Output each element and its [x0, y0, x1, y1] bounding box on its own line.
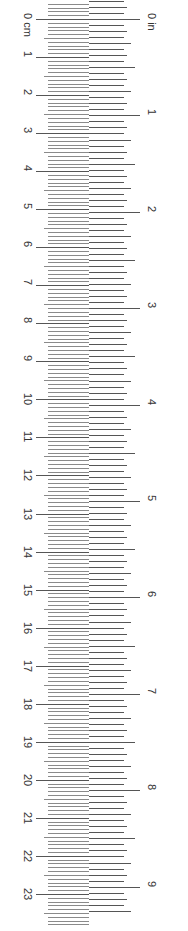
cm-label: 4 — [22, 165, 34, 171]
inch-tick — [89, 730, 127, 731]
cm-label: 6 — [22, 241, 34, 247]
mm-tick — [48, 681, 89, 682]
inch-tick — [89, 423, 124, 424]
cm-major-tick — [36, 361, 89, 362]
inch-tick — [89, 25, 124, 26]
inch-tick — [89, 393, 127, 394]
mm-tick — [48, 137, 89, 138]
mm-tick — [48, 765, 89, 766]
cm-half-tick — [44, 761, 89, 762]
inch-tick — [89, 67, 135, 68]
inch-tick — [89, 736, 124, 737]
mm-tick — [48, 708, 89, 709]
mm-tick — [48, 129, 89, 130]
inch-tick — [89, 844, 124, 845]
inch-tick — [89, 170, 124, 171]
mm-tick — [48, 529, 89, 530]
mm-tick — [48, 719, 89, 720]
inch-tick — [89, 863, 131, 864]
cm-major-tick — [36, 399, 89, 400]
inch-major-tick — [89, 790, 140, 791]
inch-tick — [89, 670, 131, 671]
inch-tick — [89, 760, 124, 761]
mm-tick — [48, 426, 89, 427]
inch-tick — [89, 869, 124, 870]
inch-tick — [89, 224, 127, 225]
mm-tick — [48, 259, 89, 260]
cm-major-tick — [36, 628, 89, 629]
mm-tick — [48, 122, 89, 123]
mm-tick — [48, 700, 89, 701]
mm-tick — [48, 841, 89, 842]
mm-tick — [48, 262, 89, 263]
mm-tick — [48, 635, 89, 636]
cm-label: 20 — [22, 774, 34, 786]
mm-tick — [48, 110, 89, 111]
mm-tick — [48, 498, 89, 499]
mm-tick — [48, 202, 89, 203]
mm-tick — [48, 46, 89, 47]
mm-tick — [48, 80, 89, 81]
inch-tick — [89, 417, 127, 418]
inch-tick — [89, 43, 131, 44]
inch-tick — [89, 754, 127, 755]
inch-tick — [89, 441, 127, 442]
cm-major-tick — [36, 742, 89, 743]
cm-major-tick — [36, 285, 89, 286]
mm-tick — [48, 483, 89, 484]
mm-tick — [48, 30, 89, 31]
inch-label: 8 — [146, 784, 158, 790]
inch-tick — [89, 543, 124, 544]
mm-tick — [48, 525, 89, 526]
cm-label: 15 — [22, 584, 34, 596]
cm-label: 1 — [22, 51, 34, 57]
inch-tick — [89, 176, 127, 177]
inch-tick — [89, 326, 124, 327]
inch-tick — [89, 164, 135, 165]
mm-tick — [48, 297, 89, 298]
inch-tick — [89, 218, 124, 219]
inch-tick — [89, 152, 127, 153]
mm-tick — [48, 27, 89, 28]
cm-major-tick — [36, 57, 89, 58]
inch-tick — [89, 121, 124, 122]
mm-tick — [48, 753, 89, 754]
inch-tick — [89, 622, 131, 623]
inch-tick — [89, 236, 131, 237]
mm-tick — [48, 358, 89, 359]
mm-tick — [48, 316, 89, 317]
mm-tick — [48, 605, 89, 606]
inch-label: 3 — [146, 302, 158, 308]
inch-tick — [89, 609, 127, 610]
mm-tick — [48, 689, 89, 690]
cm-major-tick — [36, 247, 89, 248]
mm-tick — [48, 768, 89, 769]
mm-tick — [48, 87, 89, 88]
mm-tick — [48, 407, 89, 408]
mm-tick — [48, 300, 89, 301]
inch-tick — [89, 483, 124, 484]
mm-tick — [48, 567, 89, 568]
inch-tick — [89, 374, 124, 375]
mm-tick — [48, 491, 89, 492]
cm-label: 19 — [22, 736, 34, 748]
inch-tick — [89, 573, 131, 574]
mm-tick — [48, 487, 89, 488]
inch-major-tick — [89, 501, 140, 502]
mm-tick — [48, 563, 89, 564]
inch-tick — [89, 314, 124, 315]
inch-tick — [89, 911, 131, 912]
inch-tick — [89, 615, 124, 616]
mm-tick — [48, 620, 89, 621]
cm-half-tick — [44, 76, 89, 77]
mm-tick — [48, 658, 89, 659]
mm-tick — [48, 175, 89, 176]
inch-tick — [89, 549, 135, 550]
inch-major-tick — [89, 887, 140, 888]
inch-tick — [89, 49, 124, 50]
inch-tick — [89, 640, 124, 641]
inch-tick — [89, 31, 127, 32]
inch-major-tick — [89, 115, 140, 116]
mm-tick — [48, 65, 89, 66]
inch-tick — [89, 447, 124, 448]
